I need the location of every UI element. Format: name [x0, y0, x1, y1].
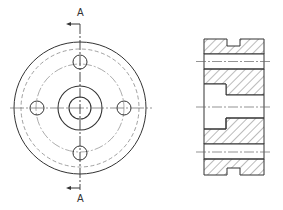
section-top-segment [204, 39, 264, 54]
drawing-canvas: A A [0, 0, 283, 210]
section-label-bottom: A [77, 193, 84, 204]
bolt-passage-bottom [204, 144, 264, 159]
section-label-top: A [77, 7, 84, 18]
section-bottom-segment [204, 159, 264, 175]
section-view [196, 39, 272, 175]
front-view [10, 22, 152, 190]
arrowhead-top [66, 22, 71, 26]
arrowhead-bottom [66, 186, 71, 190]
